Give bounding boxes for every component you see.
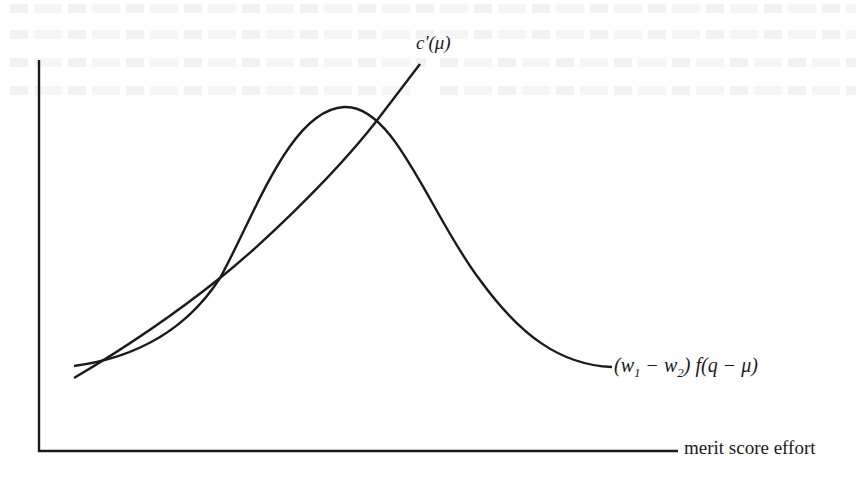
marginal-benefit-label: (w1 − w2) f(q − μ)	[614, 354, 758, 381]
marginal-cost-label: c'(μ)	[416, 32, 451, 54]
x-axis-label: merit score effort	[684, 437, 816, 459]
diagram-canvas	[0, 0, 866, 487]
marginal-label-suffix: ) f(q − μ)	[684, 354, 758, 376]
marginal-label-prefix: (w	[614, 354, 634, 376]
marginal-benefit-curve	[74, 107, 612, 367]
marginal-cost-curve	[74, 64, 420, 378]
marginal-label-mid: − w	[641, 354, 678, 376]
